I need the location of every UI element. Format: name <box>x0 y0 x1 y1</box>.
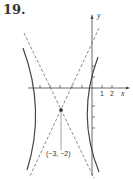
hyperbola-right-branch <box>87 57 99 172</box>
x-axis-label: x <box>121 89 125 98</box>
x-ticks <box>40 85 112 88</box>
center-label: (−3, −2) <box>46 150 71 157</box>
x-tick-label-1: 1 <box>100 90 104 97</box>
hyperbola-left-branch <box>23 48 36 170</box>
x-tick-label-2: 2 <box>110 90 114 97</box>
center-point <box>59 108 63 112</box>
y-axis-label: y <box>97 11 101 20</box>
